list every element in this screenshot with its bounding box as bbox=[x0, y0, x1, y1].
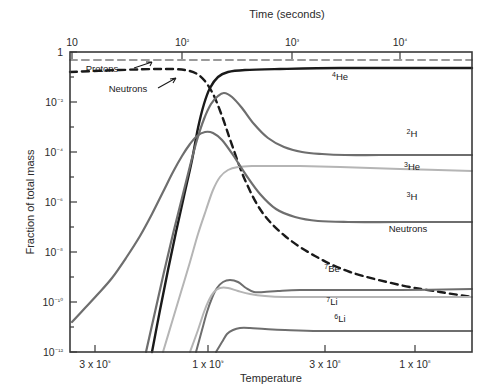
curve-label-Protons-0: Protons bbox=[86, 63, 119, 74]
top-tick-label-0: 10 bbox=[66, 36, 78, 48]
axis-titles-layer: Time (seconds) Temperature Fraction of t… bbox=[24, 8, 325, 384]
curve-label-Neutrons-6: Neutrons bbox=[389, 223, 428, 234]
curve-3He bbox=[163, 166, 472, 352]
curve-4He bbox=[152, 68, 472, 352]
axis-tick-labels-layer: 1010²10³10⁴3 x 10⁹1 x 10⁹3 x 10⁸1 x 10⁸1… bbox=[42, 36, 430, 370]
y-tick-label-2: 10⁻⁴ bbox=[45, 146, 63, 158]
y-tick-label-5: 10⁻¹⁰ bbox=[42, 296, 63, 308]
top-tick-label-1: 10² bbox=[175, 36, 190, 48]
axis-ticks-layer bbox=[70, 52, 415, 352]
plot-frame-layer bbox=[70, 52, 472, 352]
top-tick-label-2: 10³ bbox=[285, 36, 300, 48]
curve-label-He-2: 4He bbox=[332, 71, 348, 83]
curves-layer bbox=[70, 60, 472, 352]
y-tick-label-1: 10⁻² bbox=[45, 96, 63, 108]
curve-Neutrons bbox=[70, 69, 472, 297]
curve-label-He-4: 3He bbox=[404, 161, 420, 173]
top-tick-label-3: 10⁴ bbox=[393, 36, 408, 48]
leader-line-0 bbox=[134, 62, 152, 68]
curve-label-Neutrons-1: Neutrons bbox=[109, 83, 148, 94]
y-tick-label-3: 10⁻⁶ bbox=[45, 196, 63, 208]
bottom-tick-label-3: 1 x 10⁸ bbox=[399, 358, 431, 370]
plot-frame bbox=[70, 52, 472, 352]
curve-label-Li-9: 6Li bbox=[334, 313, 345, 325]
curve-6Li bbox=[216, 328, 472, 352]
curve-labels-layer: ProtonsNeutrons4He2H3He3HNeutrons7Be7Li6… bbox=[86, 62, 428, 324]
y-tick-label-4: 10⁻⁸ bbox=[45, 246, 63, 258]
curve-label-H-3: 2H bbox=[407, 128, 418, 140]
bottom-axis-title: Temperature bbox=[240, 372, 302, 384]
bottom-tick-label-0: 3 x 10⁹ bbox=[79, 358, 111, 370]
curve-label-H-5: 3H bbox=[407, 191, 418, 203]
bottom-tick-label-1: 1 x 10⁹ bbox=[192, 358, 224, 370]
left-axis-title: Fraction of total mass bbox=[24, 149, 36, 255]
leader-line-1 bbox=[158, 78, 176, 88]
nucleosynthesis-chart: 1010²10³10⁴3 x 10⁹1 x 10⁹3 x 10⁸1 x 10⁸1… bbox=[0, 0, 492, 391]
bottom-tick-label-2: 3 x 10⁸ bbox=[309, 358, 341, 370]
top-axis-title: Time (seconds) bbox=[249, 8, 324, 20]
y-tick-label-0: 1 bbox=[57, 46, 63, 58]
curve-label-Be-7: 7Be bbox=[324, 263, 340, 275]
y-tick-label-6: 10⁻¹² bbox=[43, 346, 64, 358]
curve-label-Li-8: 7Li bbox=[326, 296, 337, 308]
figure-container: 1010²10³10⁴3 x 10⁹1 x 10⁹3 x 10⁸1 x 10⁸1… bbox=[0, 0, 492, 391]
